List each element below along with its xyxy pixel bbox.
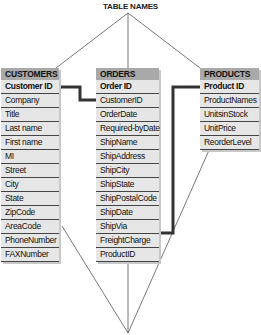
table-header: PRODUCTS xyxy=(200,68,259,80)
field-row: Street xyxy=(1,164,59,178)
field-row: ShipVia xyxy=(96,220,159,234)
field-row: Last name xyxy=(1,122,59,136)
customers-table: CUSTOMERS Customer ID Company Title Last… xyxy=(1,68,59,262)
field-row: CustomerID xyxy=(96,94,159,108)
field-row: Title xyxy=(1,108,59,122)
field-row: ReorderLevel xyxy=(200,136,259,150)
field-row: FAXNumber xyxy=(1,248,59,262)
field-row: Customer ID xyxy=(1,80,59,94)
products-table: PRODUCTS Product ID ProductNames Unitsin… xyxy=(200,68,259,150)
field-row: Required-byDate xyxy=(96,122,159,136)
field-row: PhoneNumber xyxy=(1,234,59,248)
field-row: State xyxy=(1,192,59,206)
field-row: ProductNames xyxy=(200,94,259,108)
orders-table: ORDERS Order ID CustomerID OrderDate Req… xyxy=(96,68,159,262)
field-row: Order ID xyxy=(96,80,159,94)
field-row: ZipCode xyxy=(1,206,59,220)
field-row: ShipAddress xyxy=(96,150,159,164)
table-header: CUSTOMERS xyxy=(1,68,59,80)
field-row: MI xyxy=(1,150,59,164)
field-row: First name xyxy=(1,136,59,150)
field-row: Company xyxy=(1,94,59,108)
field-row: ShipPostalCode xyxy=(96,192,159,206)
field-row: FreightCharge xyxy=(96,234,159,248)
field-row: City xyxy=(1,178,59,192)
field-row: ProductID xyxy=(96,248,159,262)
field-row: ShipDate xyxy=(96,206,159,220)
field-row: ShipCity xyxy=(96,164,159,178)
table-header: ORDERS xyxy=(96,68,159,80)
field-row: ShipState xyxy=(96,178,159,192)
field-row: AreaCode xyxy=(1,220,59,234)
field-row: ShipName xyxy=(96,136,159,150)
field-row: OrderDate xyxy=(96,108,159,122)
field-row: Product ID xyxy=(200,80,259,94)
field-row: UnitPrice xyxy=(200,122,259,136)
field-row: UnitsinStock xyxy=(200,108,259,122)
